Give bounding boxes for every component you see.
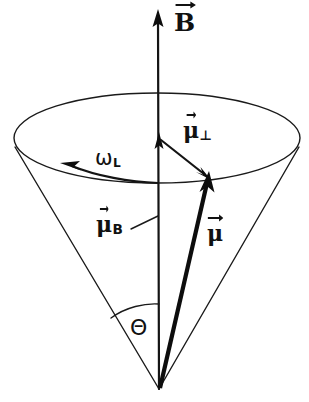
diagram-canvas <box>0 0 309 402</box>
mu-b-leader-line <box>131 216 158 229</box>
label-mu-b-subscript: B <box>113 221 123 237</box>
label-mu: μ <box>207 222 223 245</box>
label-mu-b: μ B <box>96 213 123 237</box>
mu-vector-line <box>160 183 207 388</box>
mu-perp-line <box>161 140 204 174</box>
larmor-precession-figure: B μ ⊥ ωL μ B μ <box>0 0 309 402</box>
label-omega-text: ω <box>95 146 113 170</box>
label-mu-perp-text: μ <box>183 119 199 141</box>
label-mu-perpendicular: μ ⊥ <box>183 119 212 143</box>
label-omega-subscript: L <box>113 156 121 170</box>
precession-circle-ellipse <box>14 93 300 183</box>
cone-right-edge <box>159 147 299 389</box>
label-mu-b-text: μ <box>96 213 112 235</box>
label-theta-angle: Θ <box>130 317 147 339</box>
label-b-text: B <box>174 10 195 35</box>
label-larmor-frequency: ωL <box>95 148 121 169</box>
larmor-arrowhead-icon <box>60 161 81 171</box>
label-mu-text: μ <box>207 222 223 244</box>
label-mu-perp-subscript: ⊥ <box>200 127 212 143</box>
label-magnetic-field: B <box>174 10 195 35</box>
magnetic-field-axis-line <box>158 18 159 389</box>
